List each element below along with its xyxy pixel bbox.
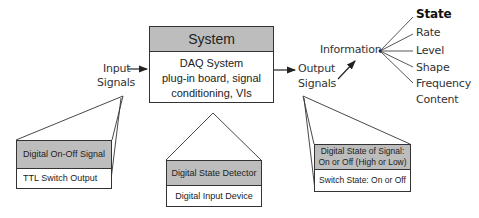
output-label-line1: Output bbox=[298, 61, 336, 76]
input-callout-box: Digital On-Off Signal TTL Switch Output bbox=[16, 140, 112, 189]
system-callout-header: Digital State Detector bbox=[167, 161, 261, 186]
info-item-shape: Shape bbox=[416, 61, 449, 74]
output-label-line2: Signals bbox=[298, 76, 336, 91]
info-item-level: Level bbox=[416, 44, 444, 57]
input-label-line1: Input bbox=[103, 62, 131, 76]
information-fan-lines bbox=[380, 17, 413, 83]
info-item-rate: Rate bbox=[416, 26, 440, 39]
information-label: Information bbox=[320, 43, 381, 56]
input-label-line2: Signals bbox=[97, 76, 131, 90]
output-callout-box: Digital State of Signal: On or Off (High… bbox=[314, 144, 411, 192]
output-callout-header: Digital State of Signal: On or Off (High… bbox=[315, 145, 410, 170]
output-callout-header-line2: On or Off (High or Low) bbox=[315, 157, 410, 168]
system-box-body: DAQ System plug-in board, signal conditi… bbox=[150, 52, 273, 101]
info-item-content: Content bbox=[416, 93, 458, 106]
input-signals-label: Input Signals bbox=[101, 62, 131, 90]
output-signals-label: Output Signals bbox=[298, 61, 336, 91]
info-item-frequency: Frequency bbox=[416, 77, 471, 90]
system-callout-pointer bbox=[166, 113, 261, 160]
system-body-line-2: plug-in board, signal bbox=[150, 71, 273, 86]
system-body-line-1: DAQ System bbox=[150, 56, 273, 71]
system-box-title: System bbox=[150, 27, 273, 52]
system-box: System DAQ System plug-in board, signal … bbox=[149, 26, 274, 103]
system-body-line-3: conditioning, VIs bbox=[150, 86, 273, 101]
information-arrow-icon bbox=[338, 61, 355, 79]
signal-classification-diagram: System DAQ System plug-in board, signal … bbox=[0, 0, 479, 218]
system-callout-body: Digital Input Device bbox=[167, 186, 261, 207]
input-callout-header: Digital On-Off Signal bbox=[17, 141, 111, 169]
output-callout-body: Switch State: On or Off bbox=[315, 170, 410, 191]
output-callout-header-line1: Digital State of Signal: bbox=[315, 146, 410, 157]
system-callout-box: Digital State Detector Digital Input Dev… bbox=[166, 160, 262, 207]
input-callout-body: TTL Switch Output bbox=[17, 169, 111, 188]
info-item-state: State bbox=[416, 7, 451, 21]
